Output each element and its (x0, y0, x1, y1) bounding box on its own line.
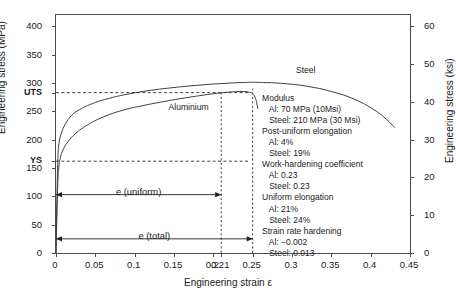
x-label: 0.15 (164, 259, 183, 270)
y-axis-right-labels: 0102030405060 (415, 14, 455, 254)
y-tick-right (410, 26, 414, 27)
x-label: 0.3 (284, 259, 297, 270)
y-label-left: 400 (26, 20, 42, 31)
x-label: 0.1 (127, 259, 140, 270)
note-line: Steel: 24% (262, 215, 363, 226)
chart-figure: Engineering stress (MPa) Engineering str… (0, 0, 456, 297)
y-tick-right (410, 140, 414, 141)
y-label-left: 50 (31, 218, 42, 229)
x-label: 0.45 (400, 259, 419, 270)
series-label-aluminium: Aluminium (168, 102, 208, 112)
x-label: 0.05 (85, 259, 104, 270)
properties-note: Modulus Al: 70 MPa (10Msi) Steel: 210 MP… (262, 93, 363, 259)
y-label-uts: UTS (24, 87, 42, 97)
y-label-left: 0 (37, 247, 42, 258)
y-label-right: 10 (424, 209, 435, 220)
note-line: Al: −0.002 (262, 237, 363, 248)
series-label-steel: Steel (296, 65, 316, 75)
y-tick-right (410, 177, 414, 178)
y-tick-right (410, 215, 414, 216)
y-tick-right (410, 102, 414, 103)
note-line: Work-hardening coefficient (262, 159, 363, 170)
x-label: 0.21 (211, 259, 230, 270)
y-label-left: 100 (26, 190, 42, 201)
note-line: Post-uniform elongation (262, 126, 363, 137)
y-label-left: 350 (26, 48, 42, 59)
note-line: Al: 21% (262, 204, 363, 215)
y-label-right: 60 (424, 20, 435, 31)
note-line: Modulus (262, 93, 363, 104)
note-line: Steel: 210 MPa (30 Msi) (262, 115, 363, 126)
x-label: 0.4 (363, 259, 376, 270)
x-label: 0.25 (242, 259, 261, 270)
note-line: Steel: 19% (262, 148, 363, 159)
y-tick-right (410, 64, 414, 65)
y-label-right: 50 (424, 58, 435, 69)
x-label: 0.35 (321, 259, 340, 270)
span-label-e-uniform: e (uniform) (116, 186, 161, 197)
x-axis-title: Engineering strain ε (0, 277, 456, 288)
note-line: Al: 70 MPa (10Msi) (262, 104, 363, 115)
plot-area: Steel Aluminium e (uniform) e (total) Mo… (55, 14, 411, 254)
note-line: Uniform elongation (262, 192, 363, 203)
y-label-right: 40 (424, 95, 435, 106)
y-label-left: 200 (26, 133, 42, 144)
y-label-left: 250 (26, 105, 42, 116)
y-axis-left-labels: 050100150200250300350400UTSYS (0, 14, 51, 254)
y-label-right: 0 (424, 247, 429, 258)
span-label-e-total: e (total) (138, 230, 170, 241)
note-line: Steel: 0.23 (262, 181, 363, 192)
note-line: Al: 4% (262, 137, 363, 148)
x-label: 0 (52, 259, 57, 270)
x-axis-labels: 00.050.10.150.20.210.250.30.350.40.45 (55, 257, 411, 273)
note-line: Al: 0.23 (262, 170, 363, 181)
y-label-ys: YS (30, 155, 42, 165)
note-line: Strain rate hardening (262, 226, 363, 237)
y-label-right: 30 (424, 133, 435, 144)
y-label-right: 20 (424, 171, 435, 182)
